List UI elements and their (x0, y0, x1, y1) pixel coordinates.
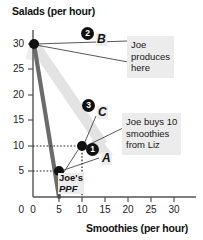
callout-produces-line-1: Joe (131, 39, 170, 51)
y-tick-0: 0 (6, 204, 24, 215)
x-tick-10: 10 (74, 204, 90, 215)
y-tick-20: 20 (6, 89, 24, 100)
badge-step-3: 3 (82, 99, 95, 112)
x-tick-20: 20 (120, 204, 136, 215)
y-tick-15: 15 (6, 114, 24, 125)
y-tick-30: 30 (6, 38, 24, 49)
callout-buys-line-2: smoothies (126, 128, 177, 140)
x-tick-25: 25 (143, 204, 159, 215)
x-tick-5: 5 (51, 204, 67, 215)
callout-joe-buys-smoothies: Joe buys 10 smoothies from Liz (122, 113, 181, 155)
point-label-b: B (96, 33, 107, 46)
x-tick-15: 15 (97, 204, 113, 215)
x-tick-30: 30 (166, 204, 182, 215)
ppf-label-line-1: Joe's (59, 172, 83, 183)
point-b (29, 39, 39, 49)
ppf-chart-figure: Salads (per hour) Smoothies (per hour) 3… (0, 0, 203, 240)
point-label-c: C (97, 106, 108, 119)
y-tick-5: 5 (6, 165, 24, 176)
y-tick-10: 10 (6, 140, 24, 151)
ppf-line-label: Joe's PPF (58, 173, 84, 194)
y-tick-25: 25 (6, 63, 24, 74)
badge-step-2: 2 (81, 27, 94, 40)
ppf-label-line-2: PPF (59, 184, 83, 195)
callout-joe-produces-here: Joe produces here (127, 36, 174, 78)
y-axis-title: Salads (per hour) (12, 5, 95, 17)
callout-buys-line-1: Joe buys 10 (126, 116, 177, 128)
x-tick-0: 0 (25, 204, 41, 215)
callout-produces-line-2: produces (131, 51, 170, 63)
x-axis-title: Smoothies (per hour) (86, 222, 188, 234)
point-label-a: A (101, 152, 112, 165)
badge-step-1: 1 (86, 143, 99, 156)
callout-produces-line-3: here (131, 62, 170, 74)
callout-buys-line-3: from Liz (126, 139, 177, 151)
